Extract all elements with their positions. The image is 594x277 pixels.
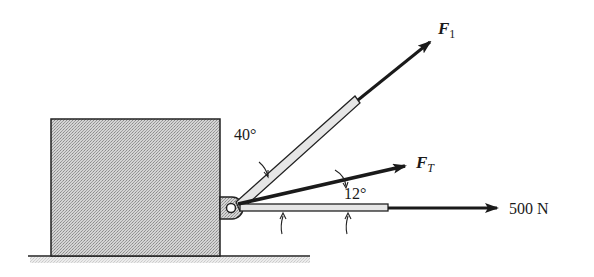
rod-f1 <box>236 42 430 211</box>
block <box>51 119 220 256</box>
ft-label: FT <box>415 153 435 175</box>
force-500-label: 500 N <box>509 200 549 217</box>
angle-40-label: 40° <box>234 126 256 143</box>
rod-horizontal <box>240 204 497 211</box>
f1-label: F1 <box>437 19 455 41</box>
force-diagram: F1 FT 500 N 40° 12° <box>0 0 594 277</box>
ground <box>28 256 310 263</box>
angle-12-label: 12° <box>344 185 366 202</box>
